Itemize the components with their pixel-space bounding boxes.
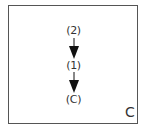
node-2: (2) — [0, 25, 147, 37]
arrow-down-icon — [67, 38, 81, 60]
node-1: (1) — [0, 60, 147, 72]
arrow-down-icon — [67, 72, 81, 94]
corner-label: C — [125, 104, 135, 120]
